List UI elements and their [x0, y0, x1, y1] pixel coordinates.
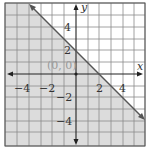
x-tick-4: 4: [119, 82, 126, 95]
x-tick-2: 2: [96, 82, 103, 95]
inequality-graph: x y (0, 0) −4 −2 2 4 4 2 −2 −4: [0, 0, 148, 151]
x-axis-label: x: [137, 60, 144, 73]
test-point-label: (0, 0): [47, 59, 77, 72]
y-tick-neg4: −4: [56, 115, 72, 128]
y-tick-4: 4: [64, 21, 71, 34]
y-tick-neg2: −2: [56, 91, 72, 104]
x-tick-neg2: −2: [39, 82, 55, 95]
x-tick-neg4: −4: [14, 82, 30, 95]
origin-point: [74, 72, 77, 75]
y-tick-2: 2: [64, 44, 71, 57]
y-axis-arrow-up: [74, 4, 79, 10]
